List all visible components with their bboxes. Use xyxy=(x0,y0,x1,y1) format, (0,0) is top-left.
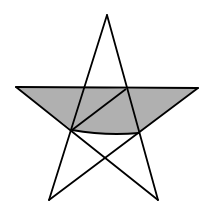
pentagram-figure xyxy=(0,0,213,214)
star-edge-left-to-right xyxy=(16,87,198,88)
shaded-region xyxy=(16,87,198,134)
star-diagram xyxy=(0,0,213,214)
